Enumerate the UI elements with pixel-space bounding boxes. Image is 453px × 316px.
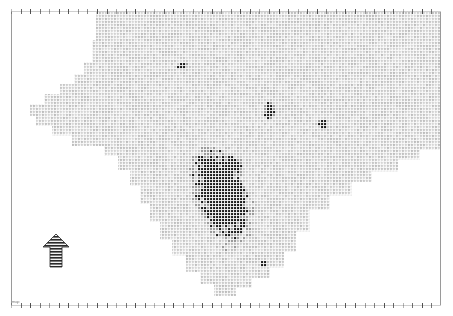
axis-tick [68,303,69,308]
axis-tick [298,9,299,14]
plot-frame-right-axis [440,11,441,306]
axis-tick [97,9,98,14]
axis-tick [145,303,146,308]
axis-tick [231,9,232,14]
axis-tick [422,9,423,14]
axis-tick [365,303,366,308]
axis-tick [355,303,356,308]
raster-map-canvas [12,12,440,304]
axis-tick [40,303,41,308]
axis-tick [384,9,385,14]
axis-tick [336,9,337,14]
axis-tick [403,303,404,308]
bottom-axis-rule [11,305,441,306]
axis-tick [269,303,270,308]
axis-tick [107,9,108,14]
axis-tick [154,303,155,308]
axis-tick [374,9,375,14]
corner-label: map [12,299,19,304]
axis-tick [212,303,213,308]
axis-tick [193,303,194,308]
axis-tick [21,303,22,308]
axis-tick [107,303,108,308]
axis-tick [221,303,222,308]
axis-tick [288,303,289,308]
axis-tick [59,303,60,308]
axis-tick [393,303,394,308]
axis-tick [403,9,404,14]
axis-tick [269,9,270,14]
raster-map-figure: map [0,0,453,316]
axis-tick [116,9,117,14]
axis-tick [250,303,251,308]
axis-tick [221,9,222,14]
axis-tick [279,303,280,308]
axis-tick [30,303,31,308]
axis-tick [345,303,346,308]
axis-tick [422,303,423,308]
axis-tick [87,303,88,308]
axis-tick [326,9,327,14]
axis-tick [307,303,308,308]
north-arrow-shape [43,234,69,267]
axis-tick [374,303,375,308]
axis-tick [279,9,280,14]
axis-tick [126,9,127,14]
plot-frame-left-axis [11,11,12,306]
axis-tick [78,303,79,308]
axis-tick [336,303,337,308]
axis-tick [154,9,155,14]
axis-tick [202,9,203,14]
axis-tick [193,9,194,14]
top-axis-rule [11,11,441,12]
axis-tick [317,303,318,308]
axis-tick [145,9,146,14]
axis-tick [78,9,79,14]
axis-tick [231,303,232,308]
axis-tick [431,9,432,14]
axis-tick [173,303,174,308]
axis-tick [87,9,88,14]
axis-tick [345,9,346,14]
axis-tick [412,303,413,308]
north-arrow-icon [41,233,71,269]
axis-tick [384,303,385,308]
axis-tick [59,9,60,14]
axis-tick [68,9,69,14]
axis-tick [173,9,174,14]
axis-tick [116,303,117,308]
axis-tick [164,303,165,308]
axis-tick [365,9,366,14]
axis-tick [307,9,308,14]
axis-tick [97,303,98,308]
axis-tick [240,303,241,308]
bottom-axis-tick-strip [11,303,441,308]
axis-tick [431,303,432,308]
axis-tick [164,9,165,14]
axis-tick [30,9,31,14]
axis-tick [40,9,41,14]
axis-tick [259,9,260,14]
axis-tick [393,9,394,14]
top-axis-tick-strip [11,9,441,14]
axis-tick [49,303,50,308]
axis-tick [259,303,260,308]
axis-tick [326,303,327,308]
axis-tick [240,9,241,14]
axis-tick [317,9,318,14]
axis-tick [126,303,127,308]
axis-tick [11,9,12,14]
axis-tick [49,9,50,14]
axis-tick [202,303,203,308]
axis-tick [183,9,184,14]
axis-tick [250,9,251,14]
axis-tick [212,9,213,14]
axis-tick [412,9,413,14]
axis-tick [135,303,136,308]
axis-tick [21,9,22,14]
axis-tick [355,9,356,14]
axis-tick [183,303,184,308]
axis-tick [298,303,299,308]
axis-tick [135,9,136,14]
axis-tick [288,9,289,14]
